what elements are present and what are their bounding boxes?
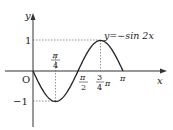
x-tick-3pi4-pi: π bbox=[104, 79, 111, 88]
sine-graph: y x O 1 −1 π 4 π 2 3 4 π π y=−sin 2x bbox=[0, 0, 173, 130]
y-tick-neg1: −1 bbox=[13, 96, 28, 107]
x-tick-pi4-den: 4 bbox=[53, 61, 58, 70]
x-tick-pi2-den: 2 bbox=[81, 83, 86, 92]
function-label: y=−sin 2x bbox=[103, 30, 154, 41]
x-tick-3pi4-den: 4 bbox=[97, 83, 102, 92]
x-tick-pi4-num: π bbox=[52, 51, 59, 60]
y-axis-arrow-icon bbox=[31, 13, 36, 20]
y-axis-label: y bbox=[24, 10, 31, 21]
x-tick-pi: π bbox=[119, 74, 126, 83]
x-axis-arrow-icon bbox=[160, 69, 167, 74]
origin-label: O bbox=[22, 74, 30, 85]
y-tick-1: 1 bbox=[25, 35, 31, 46]
x-axis-label: x bbox=[157, 75, 163, 86]
x-tick-3pi4-num: 3 bbox=[97, 73, 102, 82]
x-tick-pi2-num: π bbox=[79, 73, 86, 82]
